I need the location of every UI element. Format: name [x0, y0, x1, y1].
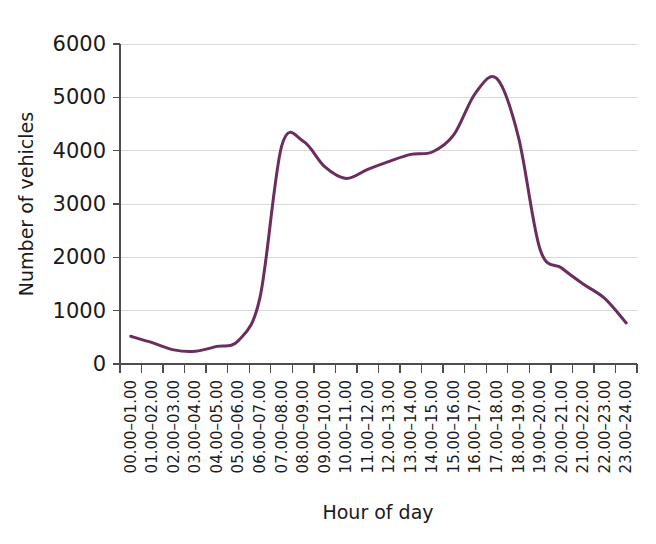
- x-axis-tick-label: 23.00–24.00: [617, 380, 635, 473]
- x-axis-tick-label: 16.00–17.00: [466, 380, 484, 473]
- vehicles-by-hour-line-chart: 0100020003000400050006000 00.00–01.0001.…: [0, 0, 656, 544]
- x-axis-tick-label: 21.00–22.00: [574, 380, 592, 473]
- x-axis-tick-label: 10.00–11.00: [337, 380, 355, 473]
- x-axis-tick-label: 06.00–07.00: [251, 380, 269, 473]
- y-axis-tick-label: 1000: [53, 299, 106, 323]
- x-axis-tick-label: 12.00–13.00: [380, 380, 398, 473]
- x-axis-tick-label: 11.00–12.00: [359, 380, 377, 473]
- x-axis-tick-label: 13.00–14.00: [402, 380, 420, 473]
- x-axis-tick-label: 09.00–10.00: [316, 380, 334, 473]
- x-axis-tick-label: 17.00–18.00: [488, 380, 506, 473]
- x-axis-tick-label: 00.00–01.00: [122, 380, 140, 473]
- x-axis-tick-label: 18.00–19.00: [510, 380, 528, 473]
- chart-container: 0100020003000400050006000 00.00–01.0001.…: [0, 0, 656, 544]
- y-axis-tick-label: 6000: [53, 32, 106, 56]
- y-axis-tick-label: 5000: [53, 85, 106, 109]
- x-axis-tick-label: 02.00–03.00: [165, 380, 183, 473]
- y-axis-tick-label: 4000: [53, 139, 106, 163]
- x-axis-tick-label: 20.00–21.00: [553, 380, 571, 473]
- x-axis-tick-label: 19.00–20.00: [531, 380, 549, 473]
- y-axis-title: Number of vehicles: [15, 112, 37, 296]
- x-axis-tick-label: 14.00–15.00: [423, 380, 441, 473]
- x-axis-tick-label: 22.00–23.00: [596, 380, 614, 473]
- x-axis-tick-label: 01.00–02.00: [143, 380, 161, 473]
- x-axis-title: Hour of day: [322, 501, 433, 523]
- x-axis-tick-label: 05.00–06.00: [229, 380, 247, 473]
- y-axis-tick-label: 3000: [53, 192, 106, 216]
- x-axis-tick-label: 07.00–08.00: [273, 380, 291, 473]
- x-axis-tick-label: 08.00–09.00: [294, 380, 312, 473]
- x-axis-tick-label: 04.00–05.00: [208, 380, 226, 473]
- y-axis-tick-label: 2000: [53, 245, 106, 269]
- y-axis-tick-label: 0: [93, 352, 106, 376]
- x-axis-tick-label: 03.00–04.00: [186, 380, 204, 473]
- x-axis-tick-label: 15.00–16.00: [445, 380, 463, 473]
